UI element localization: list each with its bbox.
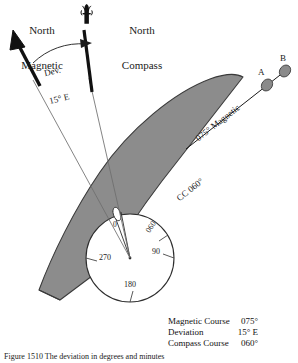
figure-caption: Figure 1510 The deviation in degrees and… — [4, 352, 164, 361]
deviation-line1: Dev. — [32, 63, 73, 82]
legend-name: Deviation — [168, 327, 230, 338]
point-a-marker — [259, 77, 275, 93]
legend-value: 075° — [230, 316, 258, 327]
compass-tick-0: 0 — [113, 221, 117, 229]
compass-tick-180: 180 — [124, 281, 136, 289]
legend-row: Magnetic Course 075° — [168, 316, 258, 327]
figure-canvas: North Magnetic North Compass Dev. 15° E … — [0, 0, 298, 363]
legend-value: 060° — [230, 338, 258, 349]
point-a-label: A — [258, 68, 265, 77]
legend-name: Compass Course — [168, 338, 230, 349]
north-compass-arrow — [84, 30, 92, 92]
compass-tick-90: 90 — [152, 248, 160, 256]
legend-table: Magnetic Course 075° Deviation 15° E Com… — [168, 316, 258, 349]
legend-name: Magnetic Course — [168, 316, 230, 327]
point-b-marker — [277, 63, 293, 79]
course-legend: Magnetic Course 075° Deviation 15° E Com… — [168, 316, 258, 349]
legend-row: Deviation 15° E — [168, 327, 258, 338]
deviation-line2: 15° E — [39, 90, 80, 109]
compass-tick-270: 270 — [99, 254, 111, 262]
point-b-label: B — [280, 54, 286, 63]
north-compass-label: North Compass — [104, 2, 180, 94]
north-magnetic-line1: North — [6, 25, 78, 37]
legend-value: 15° E — [230, 327, 258, 338]
north-compass-line2: Compass — [104, 60, 180, 72]
north-compass-line1: North — [104, 25, 180, 37]
fleur-de-lis-icon — [80, 4, 92, 24]
legend-row: Compass Course 060° — [168, 338, 258, 349]
